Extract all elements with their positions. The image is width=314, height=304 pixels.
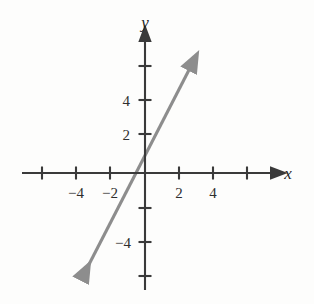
x-label-pos4: 4 (209, 185, 217, 201)
coordinate-plane-figure: −4 −2 2 4 4 2 −4 x y (0, 0, 314, 304)
y-label-pos4: 4 (123, 93, 131, 109)
graph-canvas: −4 −2 2 4 4 2 −4 x y (0, 0, 314, 304)
y-label-pos2: 2 (123, 127, 131, 143)
x-label-neg4: −4 (68, 185, 84, 201)
figure-background (0, 0, 314, 304)
x-label-neg2: −2 (102, 185, 118, 201)
y-label-neg4: −4 (115, 235, 131, 251)
x-label-pos2: 2 (175, 185, 183, 201)
x-axis-label: x (283, 164, 292, 183)
y-axis-label: y (139, 13, 149, 32)
